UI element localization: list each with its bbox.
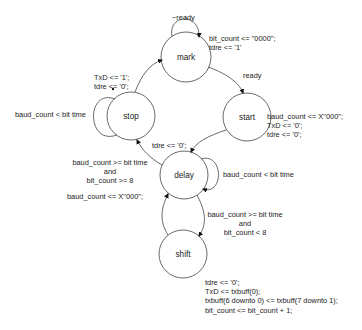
transition-stop-self-loop xyxy=(93,98,117,137)
label-delay-to-stop-cond: baud_count >= bit time and bit_count >= … xyxy=(70,158,150,186)
transition-stop-to-mark xyxy=(135,60,162,92)
transition-mark-to-start xyxy=(208,67,243,93)
label-stop-to-mark-action: TxD <= '1'; tdre <= '0'; xyxy=(94,73,129,91)
state-delay-label: delay xyxy=(174,171,194,180)
label-shift-action: tdre <= '0'; TxD <= txbuff(0); txbuff(6 … xyxy=(205,278,338,315)
transition-delay-to-shift xyxy=(197,195,204,236)
state-start-label: start xyxy=(239,113,255,122)
transition-delay-self-loop xyxy=(201,158,219,190)
label-stop-loop-cond: baud_count < bit time xyxy=(15,110,86,119)
transition-start-to-delay xyxy=(191,130,226,152)
label-start-action: baud_count <= X"000"; TxD <= '0'; tdre <… xyxy=(267,112,343,140)
label-delay-loop-cond: baud_count < bit time xyxy=(223,170,294,179)
label-delay-to-stop-action: baud_count <= X"000"; xyxy=(67,192,143,201)
state-mark-label: mark xyxy=(177,53,195,62)
label-ready: ready xyxy=(243,71,262,80)
label-not-ready: ~ready xyxy=(172,13,195,22)
state-shift-label: shift xyxy=(175,250,190,259)
transition-shift-to-delay xyxy=(162,194,168,235)
label-delay-to-shift-cond: baud_count >= bit time and bit_count < 8 xyxy=(205,210,285,238)
state-stop-label: stop xyxy=(123,112,138,121)
label-start-to-delay-action: tdre <= '0'; xyxy=(152,141,186,150)
label-mark-action: bit_count <= "0000"; tdre <= '1' xyxy=(209,34,275,52)
